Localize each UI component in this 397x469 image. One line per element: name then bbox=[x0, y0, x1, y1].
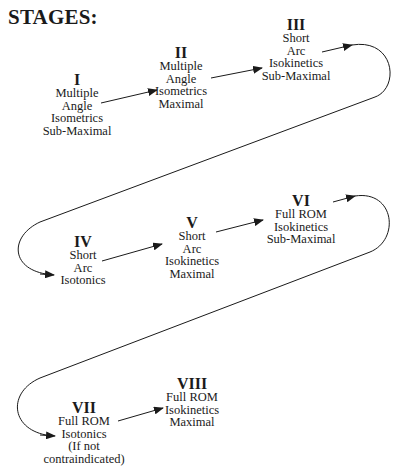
stage-line: Short bbox=[262, 32, 331, 45]
stage-numeral: II bbox=[155, 45, 207, 60]
stage-vi: VI Full ROM Isokinetics Sub-Maximal bbox=[267, 193, 336, 246]
stage-line: Isometrics bbox=[155, 85, 207, 98]
stage-numeral: III bbox=[262, 17, 331, 32]
stage-line: Multiple bbox=[43, 87, 112, 100]
stage-numeral: VI bbox=[267, 193, 336, 208]
stage-line: Sub-Maximal bbox=[262, 70, 331, 83]
arrow-v-to-vi bbox=[216, 220, 263, 232]
arrow-vii-to-viii bbox=[118, 408, 163, 421]
stage-line: Sub-Maximal bbox=[267, 233, 336, 246]
stage-v: V Short Arc Isokinetics Maximal bbox=[165, 215, 219, 280]
stage-line: contraindicated) bbox=[43, 453, 124, 466]
stage-numeral: V bbox=[165, 215, 219, 230]
stage-line: Multiple bbox=[155, 60, 207, 73]
stage-line: Full ROM bbox=[267, 208, 336, 221]
stage-numeral: I bbox=[43, 72, 112, 87]
stage-i: I Multiple Angle Isometrics Sub-Maximal bbox=[43, 72, 112, 137]
stage-line: Maximal bbox=[155, 98, 207, 111]
stage-line: Isometrics bbox=[43, 112, 112, 125]
stage-iv: IV Short Arc Isotonics bbox=[60, 234, 105, 287]
stage-line: Maximal bbox=[165, 416, 219, 429]
arrow-into-iv bbox=[40, 274, 54, 275]
stage-iii: III Short Arc Isokinetics Sub-Maximal bbox=[262, 17, 331, 82]
stage-line: Full ROM bbox=[165, 391, 219, 404]
stage-line: Isotonics bbox=[60, 274, 105, 287]
stage-line: Short bbox=[165, 230, 219, 243]
stage-numeral: VII bbox=[43, 400, 124, 415]
stage-line: (If not bbox=[43, 440, 124, 453]
stage-line: Maximal bbox=[165, 268, 219, 281]
arrow-ii-to-iii bbox=[211, 68, 262, 78]
stage-line: Sub-Maximal bbox=[43, 125, 112, 138]
stage-line: Short bbox=[60, 249, 105, 262]
arrow-iv-to-v bbox=[102, 244, 162, 261]
stage-line: Full ROM bbox=[43, 415, 124, 428]
stage-line: Isokinetics bbox=[165, 255, 219, 268]
stage-vii: VII Full ROM Isotonics (If not contraind… bbox=[43, 400, 124, 465]
stage-viii: VIII Full ROM Isokinetics Maximal bbox=[165, 376, 219, 429]
stage-numeral: IV bbox=[60, 234, 105, 249]
stage-numeral: VIII bbox=[165, 376, 219, 391]
stage-ii: II Multiple Angle Isometrics Maximal bbox=[155, 45, 207, 110]
stage-line: Isokinetics bbox=[262, 57, 331, 70]
arrow-vi-out bbox=[333, 196, 355, 202]
